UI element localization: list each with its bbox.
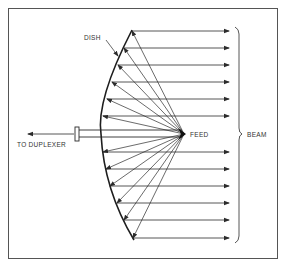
dish-label: DISH xyxy=(84,34,101,41)
beam-label: BEAM xyxy=(247,131,267,138)
antenna-diagram: DISH FEED BEAM TO DUPLEXER xyxy=(0,0,285,267)
duplexer-label: TO DUPLEXER xyxy=(17,141,66,148)
waveguide-flange xyxy=(75,127,79,141)
feed-label: FEED xyxy=(190,131,209,138)
diagram-border xyxy=(9,9,278,259)
